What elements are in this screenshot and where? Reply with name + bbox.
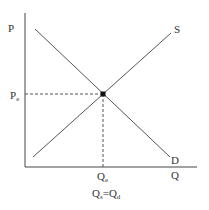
equilibrium-quantity-main: Q bbox=[97, 170, 105, 182]
equilibrium-price-sub: e bbox=[16, 95, 19, 103]
equilibrium-price-label: Pe bbox=[10, 89, 19, 103]
price-axis-label: P bbox=[8, 22, 14, 34]
equilibrium-quantity-sub: e bbox=[105, 176, 108, 184]
condition-right-main: Q bbox=[109, 187, 117, 199]
equilibrium-quantity-label: Qe bbox=[97, 170, 108, 184]
condition-left-main: Q bbox=[92, 187, 100, 199]
equilibrium-condition: Qs=Qd bbox=[92, 187, 121, 201]
condition-right-sub: d bbox=[117, 193, 121, 201]
quantity-axis-label: Q bbox=[171, 169, 179, 181]
supply-demand-diagram: P Pe S D Q Qe Qs=Qd bbox=[0, 0, 209, 210]
demand-label: D bbox=[171, 154, 179, 166]
equilibrium-point bbox=[101, 92, 106, 97]
supply-label: S bbox=[174, 23, 180, 35]
